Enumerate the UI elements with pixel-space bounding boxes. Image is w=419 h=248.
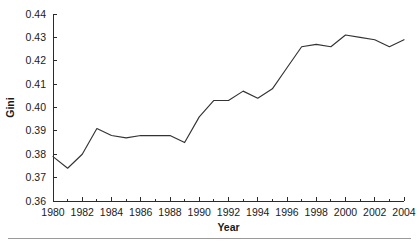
x-tick-label: 1980	[41, 206, 65, 218]
y-tick-label: 0.36	[26, 195, 47, 207]
x-axis-title: Year	[217, 221, 239, 233]
x-tick-label: 1994	[246, 206, 270, 218]
x-tick-label: 2000	[334, 206, 358, 218]
y-axis-tick-labels: 0.360.370.380.390.400.410.420.430.44	[26, 8, 47, 207]
y-tick-label: 0.43	[26, 31, 47, 43]
x-tick-label: 1988	[158, 206, 182, 218]
chart-figure: 0.360.370.380.390.400.410.420.430.44 198…	[0, 0, 419, 248]
gini-line-chart: 0.360.370.380.390.400.410.420.430.44 198…	[0, 0, 419, 248]
x-tick-label: 1990	[188, 206, 212, 218]
y-tick-label: 0.37	[26, 171, 47, 183]
y-tick-label: 0.42	[26, 54, 47, 66]
y-tick-label: 0.40	[26, 101, 47, 113]
x-tick-label: 1992	[217, 206, 241, 218]
x-tick-label: 2002	[363, 206, 387, 218]
x-tick-label: 1982	[71, 206, 95, 218]
y-tick-label: 0.44	[26, 8, 47, 20]
x-tick-label: 2004	[392, 206, 416, 218]
x-tick-label: 1986	[129, 206, 153, 218]
y-tick-label: 0.41	[26, 78, 47, 90]
y-axis-title: Gini	[4, 97, 16, 117]
y-tick-label: 0.38	[26, 148, 47, 160]
x-tick-label: 1998	[305, 206, 329, 218]
x-tick-label: 1996	[275, 206, 299, 218]
x-tick-label: 1984	[100, 206, 124, 218]
y-tick-label: 0.39	[26, 124, 47, 136]
